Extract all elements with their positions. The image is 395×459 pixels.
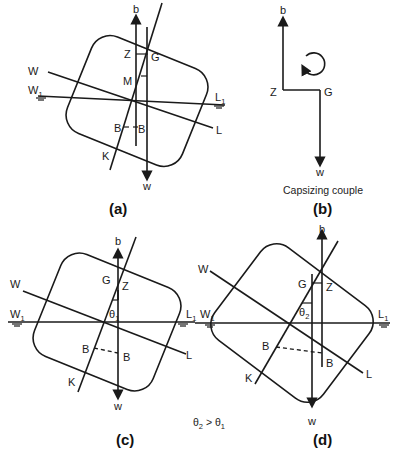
label-B-right: B (123, 351, 130, 363)
label-Z: Z (326, 281, 333, 293)
label-Z: Z (122, 280, 129, 292)
label-Z: Z (270, 86, 277, 98)
label-L: L (216, 124, 222, 136)
label-L: L (366, 368, 372, 380)
panel-d: b G Z θ2 W W1 L1 L B B K w (d) (195, 223, 390, 448)
label-L1: L1 (186, 308, 196, 323)
water-symbol-right (178, 324, 188, 326)
label-M: M (123, 75, 132, 87)
label-W: W (198, 263, 209, 275)
label-Z: Z (124, 48, 131, 60)
water-symbol-right (214, 106, 224, 108)
label-B-right: B (326, 357, 333, 369)
label-w: w (307, 415, 316, 427)
label-theta2: θ2 (299, 306, 309, 321)
label-L: L (186, 349, 192, 361)
caption-c: (c) (116, 431, 134, 448)
label-w: w (315, 166, 324, 178)
label-w: w (113, 400, 122, 412)
label-B-left: B (114, 122, 121, 134)
B-dashed-link (276, 347, 322, 353)
label-G: G (102, 274, 111, 286)
capsizing-couple-title: Capsizing couple (283, 184, 363, 196)
panel-b: b Z G w Capsizing couple (b) (270, 4, 363, 217)
water-symbol-left (12, 324, 22, 326)
label-G: G (151, 51, 160, 63)
stability-diagram: b Z G M W W1 L1 L B B K w (a) b Z G w Ca… (0, 0, 395, 459)
label-G: G (298, 278, 307, 290)
label-B-right: B (138, 123, 145, 135)
label-K: K (245, 372, 253, 384)
label-L1: L1 (378, 308, 388, 323)
label-G: G (324, 86, 333, 98)
B-dashed-link (94, 348, 118, 353)
label-K: K (68, 376, 76, 388)
label-b: b (319, 223, 325, 235)
label-b: b (280, 4, 286, 16)
label-W: W (28, 65, 39, 77)
theta-comparison: θ2 > θ1 (193, 416, 225, 431)
label-b: b (133, 3, 139, 15)
panel-a: b Z G M W W1 L1 L B B K w (a) (28, 3, 225, 217)
rotation-arrow-icon (304, 53, 325, 75)
label-W1: W1 (28, 84, 43, 99)
panel-c: b G Z θ1 W W1 L1 L B B K w (c) (8, 235, 196, 448)
water-symbol-right (379, 325, 389, 327)
label-W: W (10, 278, 21, 290)
label-W1: W1 (200, 308, 215, 323)
caption-b: (b) (313, 200, 332, 217)
caption-d: (d) (313, 431, 332, 448)
label-B-left: B (82, 343, 89, 355)
caption-a: (a) (109, 200, 127, 217)
water-symbol-left (205, 325, 215, 327)
label-B-left: B (262, 340, 269, 352)
centerline-K (78, 237, 136, 392)
label-b: b (115, 235, 121, 247)
label-W1: W1 (10, 308, 25, 323)
label-K: K (102, 150, 110, 162)
label-L1: L1 (215, 91, 225, 106)
label-w: w (142, 180, 151, 192)
